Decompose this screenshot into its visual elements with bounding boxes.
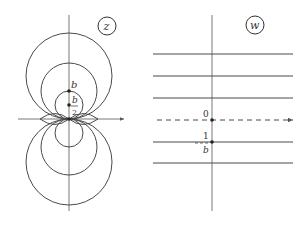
w-label-1-over-b-den: b — [203, 145, 209, 155]
w-origin-point — [210, 118, 214, 122]
w-plane: 0 1 b w — [153, 15, 293, 211]
z-plane-label: z — [103, 20, 110, 33]
z-label-b-half-den: 2 — [72, 108, 77, 117]
conformal-map-diagram: b b 2 z 0 1 b w — [0, 0, 304, 225]
w-point-1-over-b — [210, 140, 214, 144]
w-label-1-over-b-num: 1 — [203, 131, 209, 141]
z-plane: b b 2 z — [18, 15, 124, 211]
z-origin-point — [67, 117, 71, 121]
w-origin-label: 0 — [203, 109, 209, 119]
w-plane-label: w — [250, 19, 260, 32]
z-label-b-half-num: b — [72, 95, 78, 105]
z-point-b-half — [67, 103, 71, 107]
z-label-b: b — [71, 79, 77, 90]
